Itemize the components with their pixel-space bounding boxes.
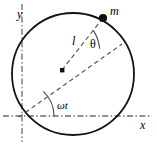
rotation-diagonal-line [19,44,122,117]
x-axis-label: x [140,119,145,131]
omega-t-angle-label: ωt [57,100,68,111]
mass-label: m [110,5,119,17]
orbit-circle [12,13,134,135]
theta-angle-label: θ [90,38,96,50]
pivot-marker [60,68,64,72]
y-axis-label: y [17,8,22,20]
physics-figure: y x m l θ ωt [0,0,157,146]
mass-marker [99,14,107,22]
length-l-label: l [72,35,75,47]
figure-canvas [0,0,157,146]
omega-t-arc [43,91,54,116]
